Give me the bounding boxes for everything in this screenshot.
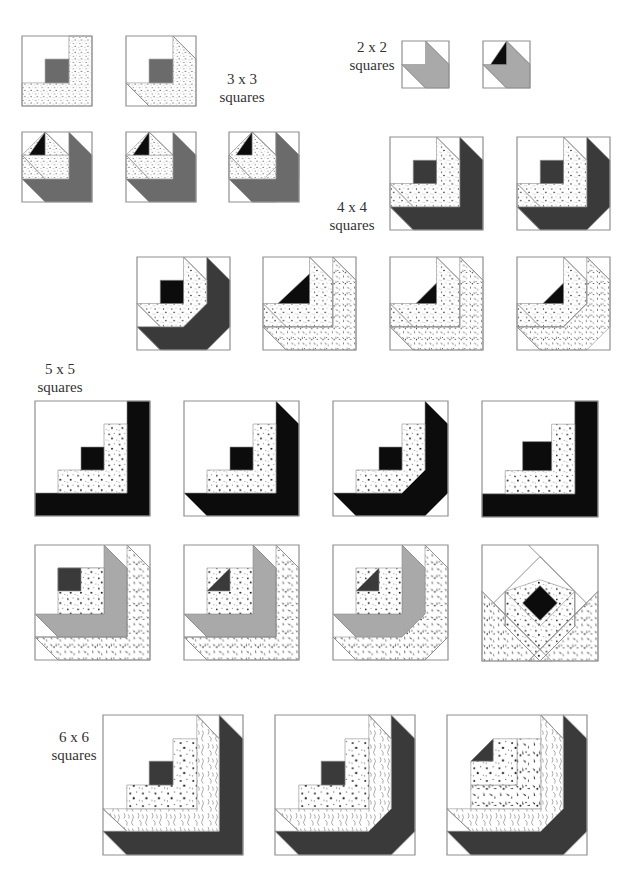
patch-dark xyxy=(540,160,563,183)
grid-size-label-dimensions: 3 x 3 xyxy=(212,70,272,88)
grid-size-label-unit: squares xyxy=(30,378,90,396)
quilt-block-4x4-8 xyxy=(390,137,483,230)
quilt-block-3x3-4 xyxy=(126,132,196,202)
label-3x3: 3 x 3 squares xyxy=(212,70,272,106)
quilt-block-5x5-17 xyxy=(482,401,598,517)
quilt-block-5x5-19 xyxy=(184,545,299,660)
grid-size-label-dimensions: 6 x 6 xyxy=(44,728,104,746)
quilt-block-3x3-3 xyxy=(22,132,92,202)
patch-dots xyxy=(22,155,69,179)
grid-size-label-unit: squares xyxy=(342,56,402,74)
quilt-block-5x5-15 xyxy=(184,401,299,516)
quilt-block-4x4-9 xyxy=(517,137,610,230)
grid-size-label-dimensions: 2 x 2 xyxy=(342,38,402,56)
quilt-block-6x6-24 xyxy=(447,715,587,855)
patch-dark xyxy=(413,160,436,183)
grid-size-label-unit: squares xyxy=(322,216,382,234)
patch-medium xyxy=(149,59,173,83)
quilt-block-5x5-18 xyxy=(35,545,150,660)
patch-dark xyxy=(149,761,173,785)
quilt-block-6x6-22 xyxy=(103,715,243,855)
patch-dots xyxy=(126,155,173,179)
quilt-block-3x3-5 xyxy=(229,132,299,202)
quilt-block-3x3-1 xyxy=(22,36,92,106)
patch-dark xyxy=(321,761,345,785)
quilt-block-4x4-13 xyxy=(517,257,610,350)
quilt-block-5x5-16 xyxy=(333,401,448,516)
label-4x4: 4 x 4 squares xyxy=(322,198,382,234)
quilt-block-5x5-21 xyxy=(482,545,598,661)
label-6x6: 6 x 6 squares xyxy=(44,728,104,764)
patch-dark xyxy=(58,568,81,591)
patch-black xyxy=(81,447,104,470)
patch-black xyxy=(379,447,402,470)
grid-size-label-unit: squares xyxy=(212,88,272,106)
quilt-block-5x5-14 xyxy=(35,401,150,516)
patch-black xyxy=(523,442,552,471)
quilt-block-6x6-23 xyxy=(275,715,415,855)
quilt-block-2x2-6 xyxy=(402,41,449,88)
quilt-block-5x5-20 xyxy=(333,545,448,660)
grid-size-label-dimensions: 4 x 4 xyxy=(322,198,382,216)
quilt-block-4x4-10 xyxy=(137,257,230,350)
patch-black xyxy=(160,280,183,303)
patch-medium xyxy=(45,59,69,83)
quilt-block-4x4-12 xyxy=(390,257,483,350)
quilt-block-4x4-11 xyxy=(263,257,356,350)
label-5x5: 5 x 5 squares xyxy=(30,360,90,396)
quilt-block-2x2-7 xyxy=(483,41,530,88)
label-2x2: 2 x 2 squares xyxy=(342,38,402,74)
grid-size-label-unit: squares xyxy=(44,746,104,764)
quilt-block-3x3-2 xyxy=(126,36,196,106)
grid-size-label-dimensions: 5 x 5 xyxy=(30,360,90,378)
patch-black xyxy=(230,447,253,470)
